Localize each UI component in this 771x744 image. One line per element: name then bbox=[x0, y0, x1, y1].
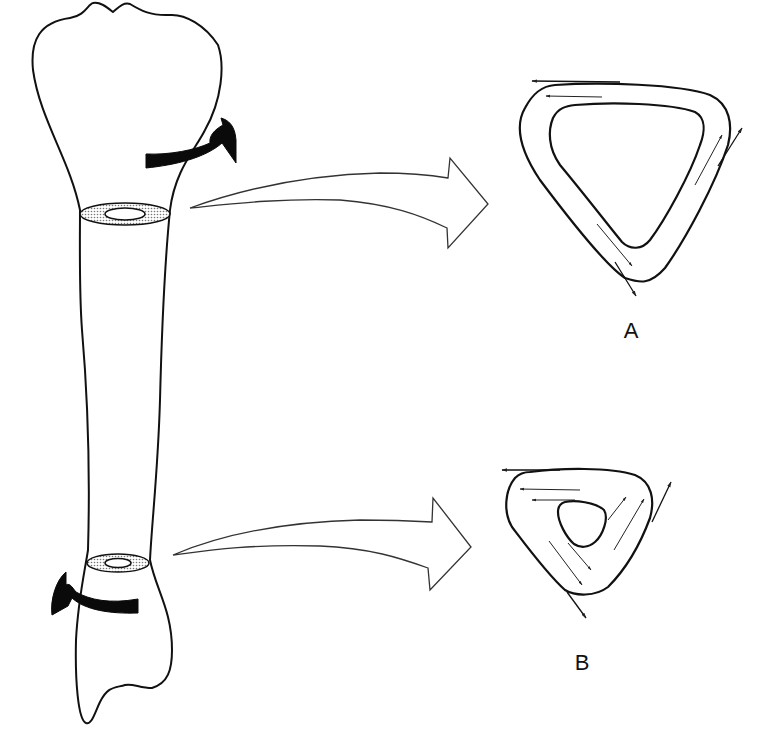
proximal-section-marker bbox=[80, 203, 170, 225]
cross-section-a-label: A bbox=[624, 318, 639, 344]
long-bone bbox=[32, 3, 236, 724]
pointer-arrow-to-a-icon bbox=[190, 158, 488, 248]
distal-section-marker bbox=[87, 554, 149, 572]
pointer-arrow-to-b-icon bbox=[173, 498, 471, 590]
diagram-canvas: A B bbox=[0, 0, 771, 744]
bone-outline bbox=[32, 3, 221, 724]
cross-section-b-label: B bbox=[575, 650, 590, 676]
cross-section-a bbox=[520, 81, 742, 296]
cross-section-b bbox=[502, 469, 671, 618]
diagram-svg bbox=[0, 0, 771, 744]
